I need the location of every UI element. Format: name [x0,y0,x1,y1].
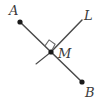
geometry-figure: A L M B [0,0,103,105]
point-label-m: M [58,47,71,60]
point-label-a: A [9,4,18,17]
point-label-l: L [84,9,93,22]
segment-M-opposite [36,52,51,64]
point-dot-M [48,49,53,54]
point-dot-B [79,79,84,84]
point-dot-A [17,19,22,24]
point-label-b: B [85,86,95,99]
